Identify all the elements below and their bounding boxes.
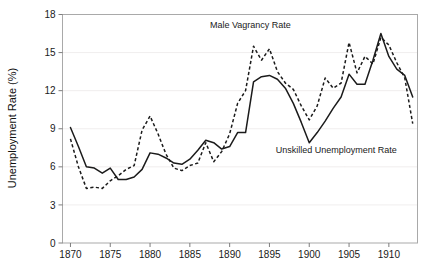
unemployment-vagrancy-line-chart: 0369121518 18701875188018851890189519001… [0,0,431,278]
x-tick-label-1885: 1885 [179,249,202,260]
x-tick-label-1905: 1905 [338,249,361,260]
chart-container: 0369121518 18701875188018851890189519001… [0,0,431,278]
y-tick-label-18: 18 [44,9,56,20]
y-tick-label-12: 12 [44,85,56,96]
x-axis-ticks: 187018751880188518901895190019051910 [59,243,400,260]
x-tick-label-1900: 1900 [298,249,321,260]
x-tick-label-1870: 1870 [59,249,82,260]
annotation-label-unskilled-unemployment-rate: Unskilled Unemployment Rate [276,145,397,155]
chart-background [0,0,431,278]
y-tick-label-9: 9 [50,123,56,134]
x-tick-label-1895: 1895 [258,249,281,260]
y-tick-label-6: 6 [50,161,56,172]
y-tick-label-0: 0 [50,238,56,249]
x-tick-label-1875: 1875 [99,249,122,260]
y-tick-label-3: 3 [50,200,56,211]
x-tick-label-1910: 1910 [378,249,401,260]
x-tick-label-1880: 1880 [139,249,162,260]
y-tick-label-15: 15 [44,47,56,58]
annotation-label-male-vagrancy-rate: Male Vagrancy Rate [210,20,291,30]
x-tick-label-1890: 1890 [219,249,242,260]
y-axis-title: Unemployment Rate (%) [6,68,18,188]
